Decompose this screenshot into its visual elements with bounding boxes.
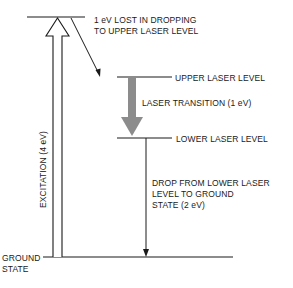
drop-label-line1: DROP FROM LOWER LASER [152, 178, 270, 188]
excitation-arrow-icon [46, 18, 69, 257]
drop-arrow-icon [143, 138, 149, 257]
ground-state-label-line2: STATE [2, 264, 29, 274]
upper-laser-level-label: UPPER LASER LEVEL [175, 73, 265, 83]
laser-transition-label: LASER TRANSITION (1 eV) [142, 98, 251, 108]
loss-label-line1: 1 eV LOST IN DROPPING [94, 15, 197, 25]
drop-label-line2: LEVEL TO GROUND [152, 189, 234, 199]
ground-state-label-line1: GROUND [2, 253, 40, 263]
lower-laser-level-label: LOWER LASER LEVEL [176, 134, 268, 144]
drop-label-line3: STATE (2 eV) [152, 200, 205, 210]
laser-transition-arrow-icon [121, 78, 143, 136]
excitation-label: EXCITATION (4 eV) [38, 131, 48, 208]
loss-label-line2: TO UPPER LASER LEVEL [94, 26, 198, 36]
